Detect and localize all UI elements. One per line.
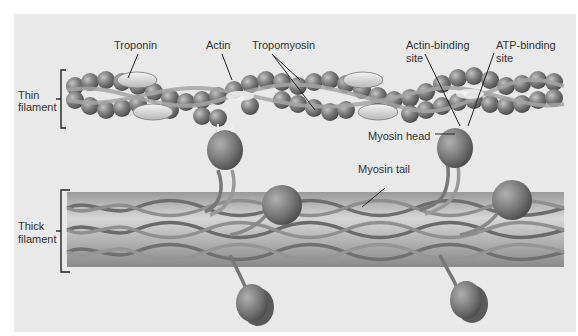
label-actin-binding-site-line1: Actin-binding [406,39,470,51]
thin-filament-bracket [61,70,66,128]
label-actin-binding-site-line2: site [406,52,423,64]
myosin-head-5 [236,284,268,322]
label-thick-filament-line1: Thick [18,220,44,232]
myosin-head-6 [450,281,482,319]
label-thin-filament-line2: filament [18,101,57,113]
label-atp-binding-site-line1: ATP-binding [496,39,556,51]
label-myosin-tail: Myosin tail [358,163,410,175]
label-thick-filament-line2: filament [18,233,57,245]
label-myosin-head: Myosin head [368,130,430,142]
myosin-head-3 [262,185,302,225]
myosin-head-4 [492,180,532,220]
label-troponin: Troponin [114,39,157,51]
myosin-head-1 [207,130,243,170]
label-thin-filament-line1: Thin [18,89,39,101]
label-actin: Actin [206,39,230,51]
label-tropomyosin: Tropomyosin [252,39,315,51]
label-atp-binding-site-line2: site [496,52,513,64]
